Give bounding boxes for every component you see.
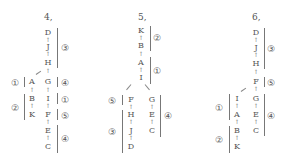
- arrow-up-icon: ↑: [43, 87, 53, 93]
- diagram-title: 6,: [252, 12, 261, 22]
- branch-line: [241, 88, 246, 92]
- arrow-up-icon: ↑: [43, 103, 53, 109]
- bracket: [158, 95, 161, 137]
- bracket: [229, 94, 232, 120]
- bracket: [229, 126, 232, 153]
- bracket: [122, 95, 125, 105]
- node: G: [43, 78, 53, 86]
- bracket: [122, 110, 125, 153]
- group-label: ③: [267, 44, 275, 54]
- group-label: ①: [11, 78, 19, 88]
- group-label: ①: [215, 103, 223, 113]
- arrow-up-icon: ↑: [43, 51, 53, 57]
- arrow-up-icon: ↑: [27, 87, 37, 93]
- group-label: ④: [61, 134, 69, 144]
- bracket: [55, 28, 58, 68]
- node: K: [232, 143, 242, 151]
- group-label: ③: [108, 127, 116, 137]
- arrow-up-icon: ↑: [251, 86, 261, 92]
- group-label: ④: [61, 78, 69, 88]
- arrow-up-icon: ↑: [126, 119, 136, 125]
- node: I: [136, 74, 146, 82]
- arrow-up-icon: ↑: [43, 68, 53, 74]
- bracket: [262, 28, 265, 69]
- node: C: [147, 127, 157, 135]
- group-label: ⑤: [267, 78, 275, 88]
- arrow-up-icon: ↑: [232, 119, 242, 125]
- bracket: [262, 77, 265, 87]
- group-label: ②: [153, 33, 161, 43]
- node: H: [43, 59, 53, 67]
- diagram-title: 5,: [138, 12, 147, 22]
- arrow-up-icon: ↑: [232, 103, 242, 109]
- arrow-up-icon: ↑: [43, 135, 53, 141]
- branch-line: [126, 84, 131, 90]
- bracket: [148, 57, 151, 84]
- group-label: ④: [267, 111, 275, 121]
- group-label: ⑤: [108, 96, 116, 106]
- branch-line: [145, 84, 150, 90]
- bracket: [55, 93, 58, 104]
- group-label: ①: [61, 95, 69, 105]
- arrow-up-icon: ↑: [251, 69, 261, 75]
- node: C: [43, 143, 53, 151]
- bracket: [24, 94, 27, 120]
- branch-line: [36, 71, 41, 75]
- node: D: [126, 143, 136, 151]
- arrow-up-icon: ↑: [27, 103, 37, 109]
- arrow-up-icon: ↑: [232, 135, 242, 141]
- arrow-up-icon: ↑: [251, 119, 261, 125]
- node: K: [27, 111, 37, 119]
- node: A: [27, 78, 37, 86]
- bracket: [148, 26, 151, 51]
- node: C: [251, 127, 261, 135]
- arrow-up-icon: ↑: [126, 135, 136, 141]
- arrow-up-icon: ↑: [43, 119, 53, 125]
- group-label: ①: [153, 66, 161, 76]
- group-label: ④: [164, 111, 172, 121]
- bracket: [55, 109, 58, 120]
- arrow-up-icon: ↑: [251, 103, 261, 109]
- group-label: ⑤: [61, 111, 69, 121]
- bracket: [55, 77, 58, 87]
- group-label: ②: [11, 103, 19, 113]
- bracket: [262, 94, 265, 136]
- arrow-up-icon: ↑: [251, 52, 261, 58]
- bracket: [24, 77, 27, 87]
- node: B: [136, 42, 146, 50]
- bracket: [55, 125, 58, 153]
- arrow-up-icon: ↑: [147, 119, 157, 125]
- node: H: [251, 60, 261, 68]
- diagram-title: 4,: [44, 12, 53, 22]
- group-label: ②: [215, 135, 223, 145]
- group-label: ③: [61, 43, 69, 53]
- arrow-up-icon: ↑: [136, 51, 146, 57]
